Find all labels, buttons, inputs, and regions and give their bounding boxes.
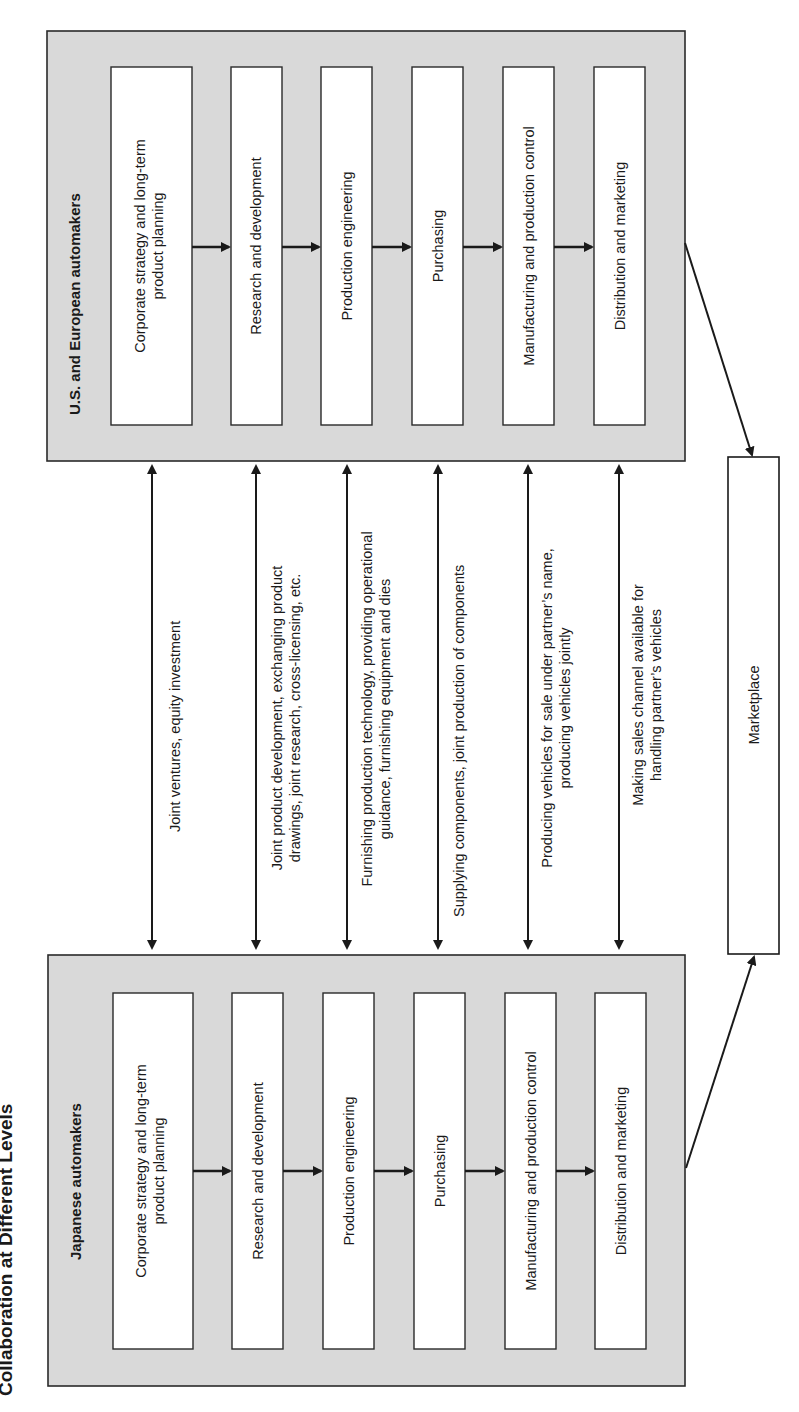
- collab-label-line2: drawings, joint research, cross-licensin…: [287, 574, 303, 863]
- us-step-purchasing: Purchasing: [412, 67, 463, 425]
- marketplace: Marketplace: [728, 457, 779, 954]
- marketplace-label: Marketplace: [746, 666, 762, 745]
- collab-label-line2: producing vehicles jointly: [557, 627, 573, 789]
- collab-label: Joint product development, exchanging pr…: [269, 566, 285, 871]
- jp-step-label: Research and development: [250, 1082, 266, 1259]
- us-step-research-development: Research and development: [231, 67, 282, 425]
- us-step-manufacturing: Manufacturing and production control: [503, 67, 554, 425]
- us-european-group-title: U.S. and European automakers: [66, 193, 83, 415]
- us-step-label: Manufacturing and production control: [521, 126, 537, 365]
- collaboration-diagram: Collaboration at Different Levels U.S. a…: [0, 0, 799, 1412]
- jp-step-research-development: Research and development: [232, 993, 283, 1349]
- collab-label: Making sales channel available for: [630, 584, 646, 806]
- collab-label: Furnishing production technology, provid…: [359, 531, 375, 886]
- us-step-label-line2: product planning: [150, 192, 166, 299]
- jp-step-distribution: Distribution and marketing: [595, 993, 646, 1349]
- collab-joint-product-development: Joint product development, exchanging pr…: [256, 466, 303, 948]
- collab-joint-ventures: Joint ventures, equity investment: [152, 466, 183, 948]
- us-step-label: Production engineering: [339, 171, 355, 320]
- page-title: Collaboration at Different Levels: [0, 1104, 16, 1396]
- us-step-production-engineering: Production engineering: [321, 67, 372, 425]
- japanese-group-title: Japanese automakers: [67, 1103, 84, 1260]
- us-step-label: Distribution and marketing: [612, 162, 628, 330]
- jp-step-production-engineering: Production engineering: [323, 993, 374, 1349]
- us-step-label: Corporate strategy and long-term: [132, 139, 148, 353]
- us-step-label: Purchasing: [430, 210, 446, 283]
- jp-step-label: Purchasing: [432, 1135, 448, 1208]
- us-step-label: Research and development: [248, 157, 264, 334]
- collab-label: Supplying components, joint production o…: [451, 565, 467, 917]
- collab-producing-vehicles: Producing vehicles for sale under partne…: [528, 466, 573, 948]
- jp-step-manufacturing: Manufacturing and production control: [505, 993, 556, 1349]
- jp-step-label: Production engineering: [341, 1096, 357, 1245]
- collab-label-line2: handling partner’s vehicles: [648, 609, 664, 781]
- collaboration-links: Joint ventures, equity investment Joint …: [152, 466, 664, 948]
- us-step-corporate-strategy: Corporate strategy and long-term product…: [111, 67, 192, 425]
- collab-label: Producing vehicles for sale under partne…: [539, 548, 555, 867]
- jp-step-label: Manufacturing and production control: [523, 1051, 539, 1290]
- us-european-automakers-group: U.S. and European automakers Corporate s…: [47, 31, 685, 461]
- jp-step-label-line2: product planning: [151, 1117, 167, 1224]
- jp-step-label: Corporate strategy and long-term: [133, 1064, 149, 1278]
- japanese-automakers-group: Japanese automakers Corporate strategy a…: [48, 955, 685, 1386]
- jp-step-purchasing: Purchasing: [414, 993, 465, 1349]
- collab-label-line2: guidance, furnishing equipment and dies: [377, 579, 393, 839]
- collab-sales-channel: Making sales channel available for handl…: [619, 466, 664, 948]
- collab-label: Joint ventures, equity investment: [167, 621, 183, 832]
- jp-step-label: Distribution and marketing: [613, 1087, 629, 1255]
- collab-supplying-components: Supplying components, joint production o…: [438, 466, 467, 948]
- jp-step-corporate-strategy: Corporate strategy and long-term product…: [113, 993, 193, 1349]
- collab-production-technology: Furnishing production technology, provid…: [347, 466, 393, 948]
- us-step-distribution: Distribution and marketing: [594, 67, 645, 425]
